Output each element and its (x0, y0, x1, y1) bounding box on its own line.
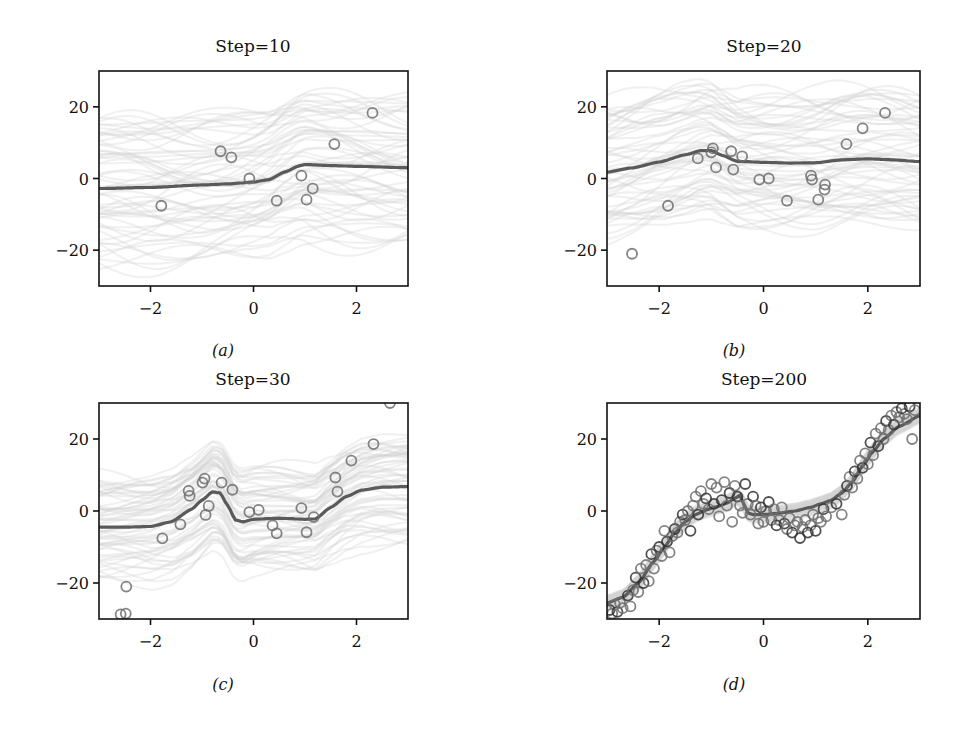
data-point (837, 510, 847, 520)
data-point (627, 249, 637, 259)
data-point (685, 526, 695, 536)
y-tick-label: 20 (69, 430, 89, 449)
y-tick-label: 0 (587, 502, 597, 521)
data-point (719, 477, 729, 487)
chart-a: −202−20020 (0, 0, 478, 364)
y-tick-label: −20 (563, 241, 597, 260)
panel-c-caption: (c) (193, 675, 253, 694)
plot-area (605, 402, 920, 619)
panel-d: Step=200 −202−20020 (d) (478, 364, 956, 729)
sample-curve (607, 411, 920, 599)
y-tick-label: −20 (55, 574, 89, 593)
x-tick-label: 0 (248, 632, 258, 651)
x-tick-label: −2 (139, 632, 163, 651)
x-tick-label: 0 (758, 632, 768, 651)
x-tick-label: 2 (351, 632, 361, 651)
chart-b: −202−20020 (478, 0, 956, 364)
data-point (907, 434, 917, 444)
x-tick-label: 2 (351, 299, 361, 318)
x-tick-label: 2 (863, 632, 873, 651)
y-tick-label: 20 (577, 430, 597, 449)
panel-d-caption: (d) (704, 675, 764, 694)
x-tick-label: 0 (758, 299, 768, 318)
panel-a-caption: (a) (193, 341, 253, 360)
data-point (730, 481, 740, 491)
plot-area (99, 88, 408, 277)
x-tick-label: −2 (647, 299, 671, 318)
data-point (727, 517, 737, 527)
panel-b-caption: (b) (704, 341, 764, 360)
panel-c: Step=30 −202−20020 (c) (0, 364, 478, 729)
x-tick-label: −2 (139, 299, 163, 318)
y-tick-label: −20 (563, 574, 597, 593)
panel-a: Step=10 −202−20020 (a) (0, 0, 478, 364)
y-tick-label: 20 (69, 98, 89, 117)
x-tick-label: 2 (863, 299, 873, 318)
data-point (740, 479, 750, 489)
y-tick-label: −20 (55, 241, 89, 260)
panel-b: Step=20 −202−20020 (b) (478, 0, 956, 364)
x-tick-label: −2 (647, 632, 671, 651)
y-tick-label: 20 (577, 98, 597, 117)
plot-area (607, 79, 920, 259)
y-tick-label: 0 (79, 502, 89, 521)
plot-area (99, 398, 408, 619)
x-tick-label: 0 (248, 299, 258, 318)
y-tick-label: 0 (79, 170, 89, 189)
y-tick-label: 0 (587, 170, 597, 189)
